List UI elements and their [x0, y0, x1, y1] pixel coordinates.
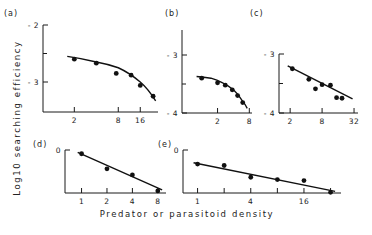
fit-line — [67, 56, 155, 100]
data-point — [340, 96, 345, 101]
y-tick-label: - 3 — [264, 50, 275, 59]
data-point — [235, 93, 240, 98]
data-point — [94, 61, 99, 66]
fit-line — [194, 163, 336, 192]
data-point — [79, 151, 84, 156]
x-tick-label: 8 — [155, 197, 160, 206]
panels-group: (a)- 2- 32816(b)- 3- 428(c)- 3- 42832(d)… — [4, 9, 359, 206]
data-point — [222, 163, 227, 168]
axes — [43, 25, 158, 112]
y-tick-label: 0 — [56, 146, 61, 155]
fit-line — [78, 152, 162, 190]
y-axis-label: Log10 searching efficiency — [12, 40, 22, 195]
data-point — [313, 86, 318, 91]
data-point — [240, 100, 245, 105]
data-point — [199, 76, 204, 81]
axes — [65, 150, 166, 193]
data-point — [302, 178, 307, 183]
data-point — [328, 83, 333, 88]
x-tick-label: 32 — [349, 117, 360, 126]
data-point — [155, 188, 160, 193]
data-point — [290, 66, 295, 71]
x-tick-label: 8 — [116, 116, 121, 125]
x-tick-label: 8 — [247, 117, 252, 126]
panel-label: (e) — [158, 140, 172, 149]
data-point — [230, 87, 235, 92]
axes — [279, 54, 358, 113]
x-tick-label: 4 — [130, 197, 135, 206]
data-point — [275, 177, 280, 182]
data-point — [306, 77, 311, 82]
panel-label: (b) — [165, 9, 179, 18]
data-point — [130, 173, 135, 178]
x-tick-label: 4 — [248, 197, 253, 206]
x-tick-label: 16 — [299, 197, 310, 206]
x-tick-label: 2 — [104, 197, 109, 206]
fit-line — [288, 66, 353, 99]
panel-a: (a)- 2- 32816 — [4, 9, 158, 125]
axes — [183, 150, 341, 193]
data-point — [215, 80, 220, 85]
panel-c: (c)- 3- 42832 — [250, 9, 359, 126]
fit-line — [197, 76, 248, 108]
data-point — [105, 166, 110, 171]
figure-canvas: Log10 searching efficiency Predator or p… — [0, 0, 372, 235]
data-point — [328, 190, 333, 195]
y-tick-label: - 4 — [264, 109, 275, 118]
y-tick-label: - 2 — [28, 21, 39, 30]
x-tick-label: 16 — [135, 116, 146, 125]
x-tick-label: 2 — [288, 117, 293, 126]
panel-d: (d)01248 — [33, 140, 166, 206]
y-tick-label: - 3 — [28, 78, 39, 87]
data-point — [248, 175, 253, 180]
panel-label: (c) — [250, 9, 264, 18]
x-tick-label: 2 — [215, 117, 220, 126]
data-point — [129, 73, 134, 78]
data-point — [138, 83, 143, 88]
y-tick-label: - 4 — [167, 109, 178, 118]
x-tick-label: 8 — [319, 117, 324, 126]
panel-label: (d) — [33, 140, 47, 149]
data-point — [114, 71, 119, 76]
y-tick-label: - 3 — [167, 51, 178, 60]
data-point — [320, 82, 325, 87]
panel-b: (b)- 3- 428 — [165, 9, 252, 126]
x-tick-label: 1 — [195, 197, 200, 206]
data-point — [223, 83, 228, 88]
panel-e: (e)01416 — [158, 140, 341, 206]
data-point — [151, 94, 156, 99]
y-tick-label: 0 — [174, 146, 179, 155]
data-point — [334, 95, 339, 100]
data-point — [72, 57, 77, 62]
x-tick-label: 1 — [79, 197, 84, 206]
data-point — [195, 162, 200, 167]
x-tick-label: 2 — [72, 116, 77, 125]
panel-label: (a) — [4, 9, 18, 18]
x-axis-label: Predator or parasitoid density — [100, 209, 275, 219]
